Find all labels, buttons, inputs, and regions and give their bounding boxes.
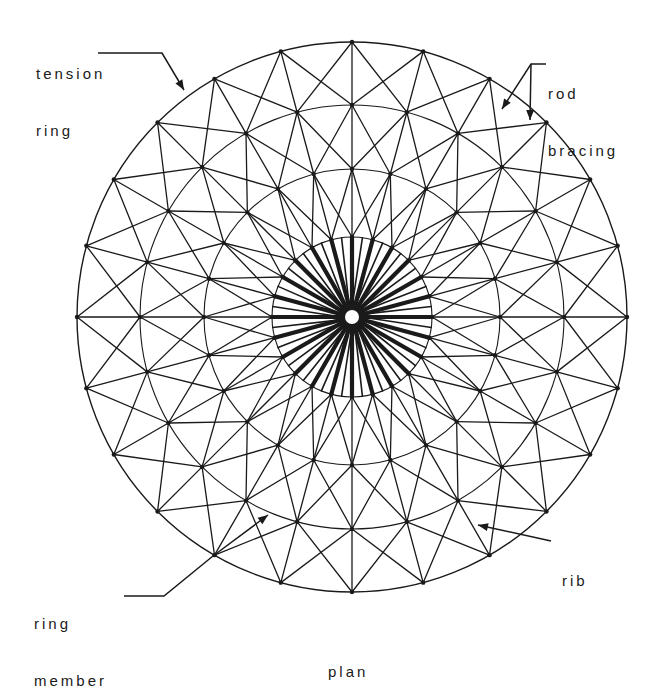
diagonal-brace	[114, 455, 202, 467]
diagonal-brace	[421, 277, 495, 279]
joint-node	[145, 370, 149, 374]
joint-node	[166, 209, 170, 213]
diagonal-brace	[429, 296, 500, 317]
rib	[86, 246, 147, 262]
label-line: rib	[562, 571, 588, 590]
joint-node	[329, 392, 333, 396]
rib	[407, 51, 423, 112]
joint-node	[245, 419, 249, 423]
diagonal-brace	[457, 422, 458, 501]
diagonal-brace	[490, 467, 502, 555]
label-line: bracing	[548, 141, 618, 160]
diagonal-brace	[86, 211, 168, 246]
diagonal-brace	[224, 374, 296, 391]
joint-node	[245, 210, 249, 214]
diagonal-brace	[352, 51, 423, 105]
joint-node	[293, 258, 297, 262]
rib	[114, 180, 169, 212]
joint-node	[615, 386, 619, 390]
joint-node	[406, 258, 410, 262]
diagonal-brace	[457, 422, 536, 423]
joint-node	[390, 246, 394, 250]
diagonal-brace	[312, 386, 314, 460]
joint-node	[615, 244, 619, 248]
diagonal-brace	[390, 174, 392, 248]
diagonal-brace	[168, 211, 247, 212]
rib	[502, 467, 547, 512]
joint-node	[419, 275, 423, 279]
diagonal-brace	[557, 180, 590, 263]
rib	[247, 374, 295, 422]
diagonal-brace	[390, 133, 458, 174]
diagonal-brace	[158, 501, 246, 512]
joint-node	[478, 389, 482, 393]
diagonal-brace	[246, 501, 281, 583]
diagonal-brace	[407, 79, 490, 112]
diagonal-brace	[278, 112, 297, 189]
joint-node	[273, 336, 277, 340]
joint-node	[625, 315, 629, 319]
rib	[215, 79, 247, 134]
joint-node	[273, 294, 277, 298]
joint-node	[419, 355, 423, 359]
joint-node	[544, 509, 548, 513]
joint-node	[350, 40, 354, 44]
joint-node	[281, 355, 285, 359]
diagonal-brace	[457, 211, 536, 212]
label-rib: rib	[562, 533, 588, 609]
joint-node	[295, 520, 299, 524]
central-hub	[339, 304, 365, 330]
diagonal-brace	[409, 374, 481, 391]
joint-node	[293, 371, 297, 375]
diagonal-brace	[86, 246, 140, 317]
rib	[536, 180, 591, 212]
label-line: tension	[36, 64, 105, 83]
label-ring-member: ring member	[34, 576, 107, 690]
label-line: member	[34, 671, 107, 690]
arrowhead-icon	[478, 523, 489, 531]
rib	[536, 423, 591, 455]
diagonal-brace	[278, 374, 295, 446]
rib	[86, 372, 147, 388]
hub-opening	[345, 310, 359, 324]
diagonal-brace	[480, 243, 557, 262]
joint-node	[212, 77, 216, 81]
diagonal-brace	[429, 243, 480, 296]
diagonal-brace	[429, 317, 500, 338]
joint-node	[424, 443, 428, 447]
joint-node	[202, 315, 206, 319]
joint-node	[112, 452, 116, 456]
diagonal-brace	[352, 169, 373, 240]
joint-node	[487, 77, 491, 81]
joint-node	[270, 315, 274, 319]
diagonal-brace	[352, 42, 407, 112]
joint-node	[405, 110, 409, 114]
joint-node	[244, 498, 248, 502]
diagonal-brace	[215, 522, 298, 555]
joint-node	[533, 421, 537, 425]
joint-node	[200, 465, 204, 469]
joint-node	[138, 315, 142, 319]
joint-node	[276, 187, 280, 191]
joint-node	[390, 384, 394, 388]
joint-node	[421, 49, 425, 53]
diagonal-brace	[390, 460, 458, 501]
diagonal-brace	[373, 189, 426, 240]
rib	[429, 338, 495, 356]
joint-node	[329, 238, 333, 242]
diagonal-brace	[246, 51, 281, 133]
joint-node	[310, 384, 314, 388]
diagonal-brace	[204, 317, 275, 338]
rib	[314, 394, 332, 460]
rib	[429, 279, 495, 297]
joint-node	[555, 260, 559, 264]
diagonal-brace	[409, 374, 426, 446]
diagonal-brace	[564, 246, 618, 317]
diagonal-brace	[495, 355, 536, 423]
arrowhead-icon	[502, 98, 511, 109]
rib	[557, 246, 618, 262]
label-tension-ring: tension ring	[36, 26, 105, 159]
joint-node	[588, 452, 592, 456]
rib	[373, 174, 391, 240]
joint-node	[222, 389, 226, 393]
